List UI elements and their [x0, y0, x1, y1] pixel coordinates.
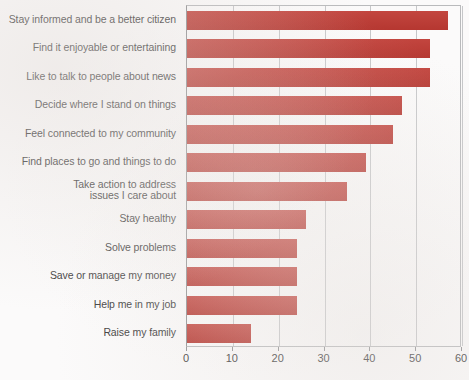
bar	[187, 210, 306, 229]
category-label: Find places to go and things to do	[22, 156, 176, 168]
bar	[187, 11, 448, 30]
x-tick-mark	[324, 347, 325, 351]
x-tick-label: 60	[455, 352, 467, 365]
x-tick-label: 10	[226, 352, 238, 365]
category-label: Solve problems	[105, 242, 176, 254]
x-tick-mark	[232, 347, 233, 351]
bar	[187, 68, 430, 87]
x-tick-label: 0	[183, 352, 189, 365]
x-tick-mark	[461, 347, 462, 351]
x-tick-mark	[415, 347, 416, 351]
category-label: Take action to address issues I care abo…	[73, 179, 176, 202]
category-label: Find it enjoyable or entertaining	[33, 42, 176, 54]
category-label: Stay healthy	[119, 213, 176, 225]
category-label: Help me in my job	[94, 299, 176, 311]
category-label: Like to talk to people about news	[26, 71, 176, 83]
bar	[187, 324, 251, 343]
x-tick-mark	[186, 347, 187, 351]
bar	[187, 296, 297, 315]
bar	[187, 96, 402, 115]
x-tick-mark	[369, 347, 370, 351]
category-label-column: Stay informed and be a better citizenFin…	[0, 5, 180, 347]
bar	[187, 267, 297, 286]
x-tick-label: 40	[363, 352, 375, 365]
x-tick-label: 20	[272, 352, 284, 365]
bar	[187, 125, 393, 144]
category-label: Decide where I stand on things	[35, 99, 176, 111]
x-tick-mark	[278, 347, 279, 351]
gridline-60	[462, 6, 463, 346]
category-label: Stay informed and be a better citizen	[9, 14, 176, 26]
category-label: Save or manage my money	[50, 270, 176, 282]
category-label: Feel connected to my community	[25, 128, 176, 140]
plot-area	[186, 5, 461, 347]
category-label: Raise my family	[103, 327, 176, 339]
x-tick-label: 50	[409, 352, 421, 365]
bar	[187, 39, 430, 58]
chart-figure: Stay informed and be a better citizenFin…	[0, 0, 469, 380]
bar	[187, 182, 347, 201]
bar	[187, 153, 366, 172]
x-axis: 0102030405060	[186, 347, 461, 371]
x-tick-label: 30	[317, 352, 329, 365]
bar	[187, 239, 297, 258]
